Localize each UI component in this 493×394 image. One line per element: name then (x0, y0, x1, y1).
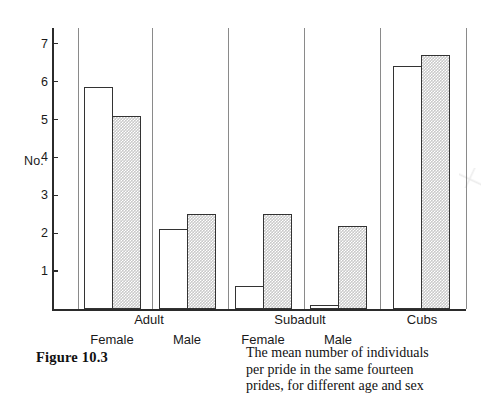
bar-subadult-female-hatched (263, 214, 292, 309)
scan-artifact (459, 168, 481, 188)
bar-cubs-all-hatched (421, 55, 450, 309)
bar-adult-male-open (159, 229, 188, 309)
x-group-label-adult: Adult (89, 312, 209, 327)
x-group-label-cubs: Cubs (362, 312, 482, 327)
bar-cubs-all-open (393, 66, 422, 309)
bar-adult-male-hatched (187, 214, 216, 309)
bar-subadult-male-hatched (338, 226, 367, 309)
caption-line-2: prides, for different age and sex (246, 378, 486, 394)
caption-line-1: per pride in the same fourteen (246, 362, 486, 379)
figure-container: No. 1234567 AdultSubadultCubs FemaleMale… (0, 0, 493, 394)
bar-subadult-male-open (310, 305, 339, 309)
bar-adult-female-open (84, 87, 113, 309)
figure-caption: The mean number of individualsper pride … (246, 345, 486, 394)
bars-layer (0, 0, 493, 309)
bar-subadult-female-open (235, 286, 264, 309)
bar-adult-female-hatched (112, 116, 141, 309)
caption-line-0: The mean number of individuals (246, 345, 486, 362)
x-axis-line (52, 309, 466, 311)
x-group-label-subadult: Subadult (240, 312, 360, 327)
figure-number: Figure 10.3 (36, 349, 108, 366)
chart-plot-area: No. 1234567 AdultSubadultCubs FemaleMale… (0, 0, 493, 320)
